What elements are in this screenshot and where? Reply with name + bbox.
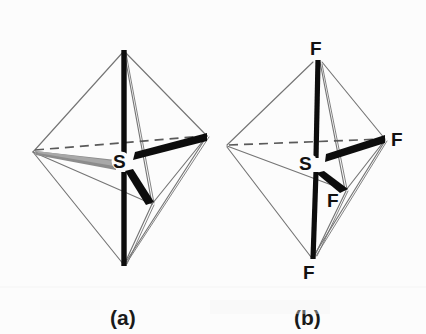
figure-container: S (a) [0, 0, 426, 334]
atom-label-f-right: F [391, 129, 403, 150]
edge-b-top-front-shadow [322, 64, 347, 189]
atom-label-s-a: S [113, 151, 126, 172]
axial-bond-b-bottom [313, 172, 316, 259]
wedge-bond-front [125, 169, 154, 205]
caption-a: (a) [110, 306, 136, 329]
wedge-bond-right [133, 133, 207, 160]
edge-bottom-front [124, 204, 152, 265]
atom-label-f-top: F [310, 38, 322, 59]
edge-top-right [124, 51, 207, 136]
edge-bottom-left [33, 152, 124, 265]
panel-b-group: S F F F F (b) [227, 38, 403, 329]
edge-bottom-front-shadow [127, 205, 154, 264]
edge-b-top-right [322, 62, 385, 139]
atom-label-f-front: F [327, 190, 339, 211]
edge-b-bottom-right [313, 141, 385, 257]
caption-b: (b) [294, 306, 321, 329]
edge-b-top-front [320, 62, 345, 190]
atom-label-f-bottom: F [303, 262, 315, 283]
panel-a-group: S (a) [33, 50, 209, 329]
wedge-bond-b-right [325, 135, 385, 162]
axial-bond-b-top [316, 60, 318, 158]
edge-top-left [33, 51, 124, 152]
edge-b-top-left [227, 62, 313, 145]
molecular-structure-diagram: S (a) [0, 0, 426, 334]
atom-label-s-b: S [299, 153, 312, 174]
edge-b-equator-left-front [227, 146, 345, 190]
